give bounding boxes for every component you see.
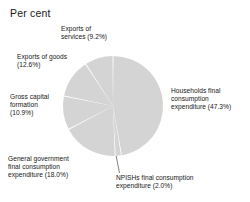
slice-label-gross-capital-formation: Gross capital formation (10.9%)	[10, 93, 49, 117]
slice-label-line: expenditure (2.0%)	[116, 182, 194, 190]
slice-label-exports-of-goods: Exports of goods (12.6%)	[17, 53, 67, 69]
slice-label-line: services (9.2%)	[61, 33, 107, 41]
slice-label-line: General government	[8, 155, 69, 163]
npishs-leader-line	[116, 156, 119, 173]
slice-label-line: consumption	[171, 95, 231, 103]
pie-slice-group	[63, 56, 163, 156]
slice-label-line: Exports of goods	[17, 53, 67, 61]
slice-label-line: formation	[10, 101, 49, 109]
slice-label-line: Gross capital	[10, 93, 49, 101]
slice-label-line: NPISHs final consumption	[116, 174, 194, 182]
pie-chart-figure: Per cent Exports of services (9.2%) Expo…	[0, 0, 250, 202]
slice-label-line: Households final	[171, 87, 231, 95]
slice-label-line: final consumption	[8, 163, 69, 171]
slice-label-npishs: NPISHs final consumption expenditure (2.…	[116, 174, 194, 190]
slice-label-line: (10.9%)	[10, 109, 49, 117]
slice-label-line: (12.6%)	[17, 61, 67, 69]
slice-label-exports-of-services: Exports of services (9.2%)	[61, 25, 107, 41]
slice-label-line: expenditure (47.3%)	[171, 103, 231, 111]
pie-slice-households	[113, 56, 163, 155]
slice-label-general-government: General government final consumption exp…	[8, 155, 69, 179]
slice-label-households: Households final consumption expenditure…	[171, 87, 231, 111]
slice-label-line: Exports of	[61, 25, 107, 33]
slice-label-line: expenditure (18.0%)	[8, 171, 69, 179]
